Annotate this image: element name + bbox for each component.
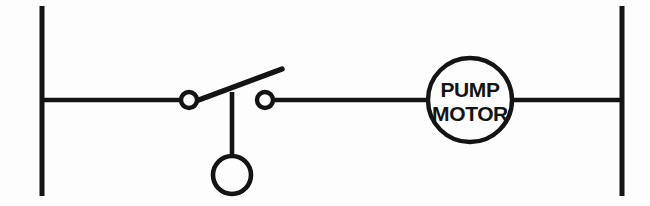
pump-motor-symbol: PUMP MOTOR (428, 58, 512, 142)
switch-right-contact-terminal (257, 92, 273, 108)
ladder-schematic: PUMP MOTOR (0, 0, 650, 206)
switch-left-contact-terminal (181, 92, 197, 108)
ladder-diagram-canvas: PUMP MOTOR (0, 0, 650, 206)
float-ball (213, 156, 251, 194)
float-switch-symbol (181, 69, 282, 194)
motor-label-line2: MOTOR (432, 102, 508, 125)
motor-label-line1: PUMP (440, 78, 499, 101)
